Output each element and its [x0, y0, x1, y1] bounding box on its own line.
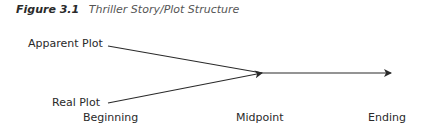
- label-beginning: Beginning: [83, 111, 138, 124]
- label-real-plot: Real Plot: [52, 96, 100, 109]
- label-apparent-plot: Apparent Plot: [28, 37, 103, 50]
- apparent-plot-line: [108, 46, 262, 73]
- label-midpoint: Midpoint: [236, 111, 284, 124]
- label-ending: Ending: [368, 111, 406, 124]
- real-plot-line: [108, 73, 262, 103]
